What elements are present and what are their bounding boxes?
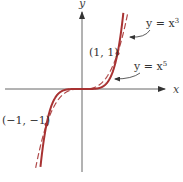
arrow-x-cubed — [130, 30, 150, 37]
point-neg1-neg1-label: (−1, −1) — [2, 114, 50, 127]
arrow-x-fifth — [115, 73, 140, 79]
label-x-cubed: y = x3 — [145, 17, 179, 30]
point-1-1-label: (1, 1) — [89, 46, 119, 59]
label-x-fifth: y = x5 — [133, 60, 167, 73]
function-plot: x y (1, 1) (−1, −1) y = x3 y = x5 — [0, 0, 183, 182]
x-axis-label: x — [173, 83, 180, 96]
y-axis-label: y — [78, 0, 86, 10]
